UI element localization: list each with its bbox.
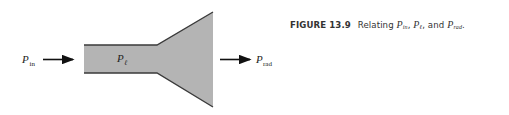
radiated-power-label: P rad: [255, 53, 272, 68]
svg-text:in: in: [30, 60, 36, 68]
figure-caption: FIGURE 13.9 Relating Pin, Pℓ, and Prad.: [290, 19, 465, 30]
svg-text:ℓ: ℓ: [124, 59, 128, 67]
figure-number: FIGURE 13.9: [290, 20, 351, 30]
svg-text:P: P: [255, 53, 263, 65]
figure-container: P in P ℓ P rad FIGURE 13.9 Relating Pin,…: [0, 0, 509, 115]
caption-symbol-p-l: Pℓ: [413, 19, 422, 30]
caption-symbol-p-rad: Prad: [447, 19, 462, 30]
caption-text: Relating: [358, 20, 394, 30]
power-flow-diagram: P in P ℓ P rad: [0, 0, 509, 115]
svg-text:P: P: [21, 53, 29, 65]
transmission-line-and-horn-shape: [84, 12, 213, 107]
input-power-label: P in: [21, 53, 35, 68]
caption-symbol-p-in: Pin: [397, 19, 408, 30]
svg-text:P: P: [116, 52, 124, 64]
svg-text:rad: rad: [263, 60, 272, 68]
